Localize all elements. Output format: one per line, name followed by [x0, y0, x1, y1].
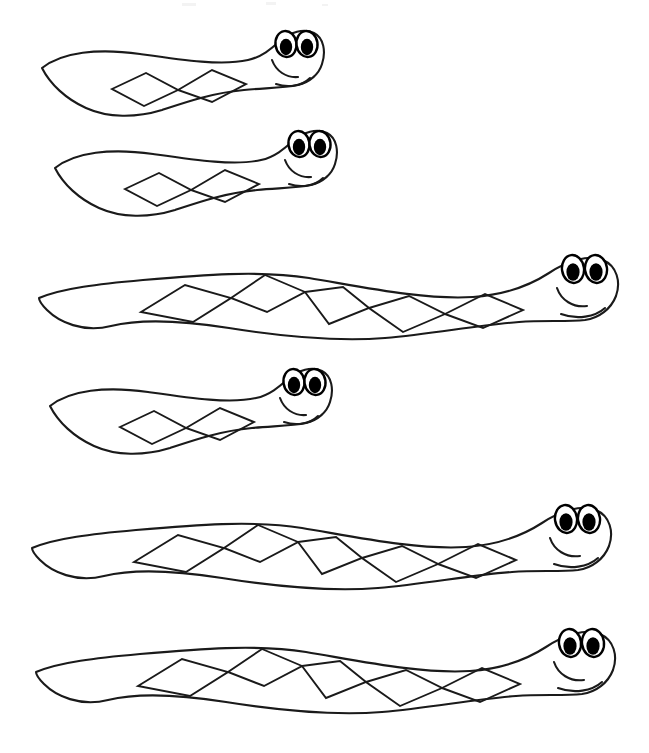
snake-left-pupil [566, 263, 579, 281]
snake-left-pupil [559, 513, 572, 531]
scan-artifact-speck [182, 3, 196, 6]
snake-right-pupil [301, 39, 313, 55]
snake-left-pupil [280, 39, 292, 55]
scan-artifact-speck [322, 4, 328, 6]
scan-artifact-speck [266, 2, 276, 5]
snake-right-pupil [314, 139, 326, 155]
snake-body-outline [36, 632, 615, 713]
snake-3 [33, 238, 625, 346]
snake-6 [30, 612, 622, 720]
snake-body-outline [39, 258, 618, 339]
snake-left-pupil [293, 139, 305, 155]
snake-1 [36, 22, 328, 120]
snake-right-pupil [582, 513, 595, 531]
snake-left-pupil [563, 637, 576, 655]
snake-right-pupil [589, 263, 602, 281]
snake-4 [44, 360, 336, 458]
snake-left-pupil [288, 377, 300, 393]
snake-2 [49, 122, 341, 220]
snake-right-pupil [586, 637, 599, 655]
snake-body-outline [32, 508, 611, 589]
snake-right-pupil [309, 377, 321, 393]
snake-5 [26, 488, 618, 596]
worksheet-canvas [0, 0, 649, 753]
